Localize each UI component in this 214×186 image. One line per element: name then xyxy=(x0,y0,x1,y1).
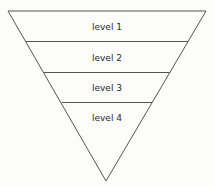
level-1-label: level 1 xyxy=(92,22,122,32)
level-3-label: level 3 xyxy=(92,83,122,93)
pyramid-outline xyxy=(8,11,206,181)
inverted-pyramid-diagram: level 1 level 2 level 3 level 4 xyxy=(0,0,214,186)
level-4-label: level 4 xyxy=(92,113,122,123)
level-2-label: level 2 xyxy=(92,53,122,63)
